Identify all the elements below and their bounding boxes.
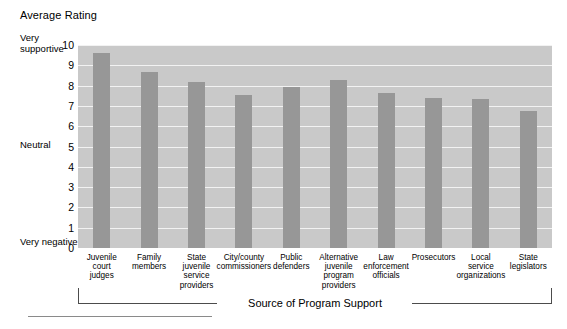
y-axis-tick-label: 3 bbox=[54, 182, 74, 192]
x-axis-tick-label-line: legislators bbox=[498, 262, 558, 271]
x-axis-tick-label-line: officials bbox=[356, 271, 416, 280]
y-axis-tick-label: 8 bbox=[54, 81, 74, 91]
x-axis-tick-label-line: organizations bbox=[451, 271, 511, 280]
y-axis-tick-label: 0 bbox=[54, 243, 74, 253]
bar bbox=[378, 93, 395, 248]
bar bbox=[283, 87, 300, 248]
x-axis-tick-label-line: judges bbox=[72, 271, 132, 280]
bar bbox=[188, 82, 205, 248]
y-axis-tick-label: 5 bbox=[54, 142, 74, 152]
x-axis-tick-label-line: service bbox=[167, 271, 227, 280]
bar bbox=[425, 98, 442, 248]
x-axis-tick-label: Statelegislators bbox=[498, 253, 558, 271]
x-axis-tick-label-line: State bbox=[498, 253, 558, 262]
bar bbox=[330, 80, 347, 248]
y-axis-tick-label: 1 bbox=[54, 223, 74, 233]
plot-area bbox=[78, 45, 552, 248]
bar-series bbox=[78, 45, 552, 248]
y-axis-tick-label: 4 bbox=[54, 162, 74, 172]
footer-divider bbox=[28, 316, 212, 317]
y-axis-tick-label: 7 bbox=[54, 101, 74, 111]
y-axis-title: Average Rating bbox=[20, 9, 97, 21]
chart-figure: Average Rating Very supportive Neutral V… bbox=[0, 0, 567, 329]
bar bbox=[520, 111, 537, 248]
y-axis-ticks: 109876543210 bbox=[50, 45, 74, 248]
x-axis-title-text: Source of Program Support bbox=[243, 297, 387, 309]
x-axis-title: Source of Program Support bbox=[78, 295, 552, 311]
bar bbox=[235, 95, 252, 248]
bar bbox=[472, 99, 489, 248]
y-axis-tick-label: 6 bbox=[54, 121, 74, 131]
x-axis-tick-label-line: enforcement bbox=[356, 262, 416, 271]
x-axis-bracket: Source of Program Support bbox=[78, 288, 552, 304]
bar bbox=[141, 72, 158, 248]
y-axis-tick-label: 9 bbox=[54, 60, 74, 70]
y-axis-tick-label: 2 bbox=[54, 202, 74, 212]
y-axis-tick-label: 10 bbox=[54, 40, 74, 50]
bar bbox=[93, 53, 110, 248]
